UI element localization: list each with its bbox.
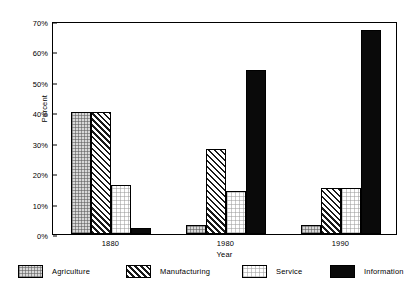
bar-agriculture-1880	[71, 112, 91, 234]
bar-information-1990	[361, 30, 381, 234]
y-tick-label: 0%	[37, 232, 53, 241]
legend-label-agriculture: Agriculture	[52, 267, 90, 276]
y-tick-mark	[53, 144, 57, 145]
y-tick-mark	[53, 53, 57, 54]
legend-item-manufacturing[interactable]: Manufacturing	[126, 263, 210, 279]
chart-legend: AgricultureManufacturingServiceInformati…	[0, 263, 415, 285]
y-tick-label: 20%	[33, 171, 53, 180]
bar-agriculture-1980	[186, 225, 206, 234]
bar-manufacturing-1990	[321, 188, 341, 234]
bar-agriculture-1990	[301, 225, 321, 234]
y-tick-label: 50%	[33, 79, 53, 88]
bar-service-1980	[226, 191, 246, 234]
legend-label-service: Service	[276, 267, 302, 276]
y-tick-mark	[53, 236, 57, 237]
bar-manufacturing-1980	[206, 149, 226, 234]
bar-manufacturing-1880	[91, 112, 111, 234]
plot-area: 0%10%20%30%40%50%60%70% 188019801990	[52, 22, 397, 235]
y-tick-label: 70%	[33, 19, 53, 28]
x-tick-label-1990: 1990	[332, 239, 350, 248]
y-tick-mark	[53, 205, 57, 206]
chart-figure: Percent 0%10%20%30%40%50%60%70% 18801980…	[0, 0, 415, 295]
x-tick-label-1980: 1980	[217, 239, 235, 248]
y-tick-mark	[53, 114, 57, 115]
y-tick-label: 10%	[33, 201, 53, 210]
bar-information-1980	[246, 70, 266, 234]
y-tick-label: 30%	[33, 140, 53, 149]
x-axis-title: Year	[52, 250, 397, 259]
legend-item-information[interactable]: Information	[330, 263, 404, 279]
y-tick-label: 40%	[33, 110, 53, 119]
bar-information-1880	[131, 228, 151, 234]
legend-label-manufacturing: Manufacturing	[160, 267, 210, 276]
legend-swatch-service	[242, 265, 267, 278]
legend-item-service[interactable]: Service	[242, 263, 302, 279]
y-tick-mark	[53, 23, 57, 24]
y-tick-mark	[53, 83, 57, 84]
legend-swatch-information	[330, 265, 355, 278]
legend-swatch-manufacturing	[126, 265, 151, 278]
bar-service-1990	[341, 188, 361, 234]
legend-swatch-agriculture	[18, 265, 43, 278]
y-tick-mark	[53, 175, 57, 176]
x-tick-label-1880: 1880	[102, 239, 120, 248]
legend-item-agriculture[interactable]: Agriculture	[18, 263, 90, 279]
bar-service-1880	[111, 185, 131, 234]
y-tick-label: 60%	[33, 49, 53, 58]
legend-label-information: Information	[364, 267, 404, 276]
